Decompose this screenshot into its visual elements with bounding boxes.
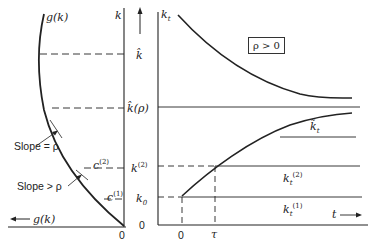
kt1-base: k [283,203,290,216]
kt-base: k [161,8,168,21]
g-k-curve-label: g(k) [46,12,68,23]
left-origin-label: 0 [119,230,125,241]
c2-label: c(2) [93,159,109,171]
left-axis-k-label: k [115,10,122,21]
diagram-canvas: k g(k) Slope = ρ Slope > ρ c(2) c(1) g(k… [0,0,376,242]
k0-sub: 0 [143,199,147,207]
k0-label: k0 [136,193,147,207]
k-tilde-base: k̃ [310,120,317,133]
arrow-right-icon [356,213,362,218]
kt1-sup: (1) [293,202,303,210]
t-zero-label: 0 [178,230,184,241]
arrow-left-icon [10,217,16,222]
k2-sup: (2) [138,161,148,169]
g-k-axis-label: g(k) [33,214,55,225]
arrow-up-icon [138,7,143,14]
t-axis-label: t [332,209,336,220]
k-hat-path [178,15,352,98]
kt2-label: kt(2) [283,172,302,187]
kt-axis-label: kt [161,9,171,23]
diagram-lines [0,0,376,242]
c2-sup: (2) [99,158,109,166]
tau-label: τ [211,229,217,240]
kt1-label: kt(1) [283,203,302,218]
k-tilde-sub: t [317,127,320,135]
kt2-sup: (2) [293,171,303,179]
kt1-sub: t [290,210,293,218]
c1-sup: (1) [113,190,123,198]
k2-base: k [131,162,138,175]
k0-base: k [136,192,143,205]
middle-zero-label: 0 [139,220,145,231]
k-tilde-path [182,113,352,196]
c1-label: c(1) [107,191,123,203]
slope-equal-label: Slope = ρ [14,141,59,152]
k2-label: k(2) [131,162,148,174]
slope-greater-label: Slope > ρ [17,181,62,192]
kt2-base: k [283,172,290,185]
kt2-sub: t [290,179,293,187]
kt-sub: t [168,15,171,23]
rho-condition-box: ρ > 0 [248,37,285,54]
k-tilde-label: k̃t [310,121,320,135]
k-hat-rho-label: k̂(ρ) [127,103,149,114]
k-hat-label: k̂ [136,50,143,61]
